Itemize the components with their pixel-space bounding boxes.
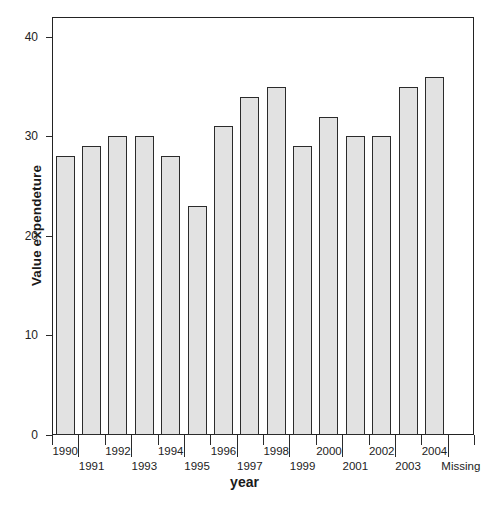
bar bbox=[267, 87, 286, 435]
bar-chart: Value expendeture 010203040 199019911992… bbox=[0, 0, 489, 506]
x-tick-mark bbox=[316, 435, 317, 445]
bar bbox=[56, 156, 75, 435]
y-tick-label: 30 bbox=[4, 130, 38, 142]
x-tick-label: 1998 bbox=[253, 445, 299, 457]
x-tick-label: 1993 bbox=[121, 460, 167, 472]
y-tick-label: 10 bbox=[4, 329, 38, 341]
bar bbox=[108, 136, 127, 435]
y-tick-label: 0 bbox=[4, 429, 38, 441]
x-tick-label: 2003 bbox=[385, 460, 431, 472]
x-tick-mark bbox=[421, 435, 422, 445]
bar bbox=[293, 146, 312, 435]
bar bbox=[425, 77, 444, 435]
x-tick-mark bbox=[369, 435, 370, 445]
bar bbox=[399, 87, 418, 435]
x-tick-mark bbox=[474, 435, 475, 445]
x-tick-label: 1994 bbox=[148, 445, 194, 457]
x-tick-label: 2000 bbox=[306, 445, 352, 457]
x-tick-label: 1992 bbox=[95, 445, 141, 457]
bar bbox=[82, 146, 101, 435]
x-tick-label: 2004 bbox=[411, 445, 457, 457]
bar bbox=[188, 206, 207, 435]
y-axis-title: Value expendeture bbox=[29, 116, 44, 336]
x-tick-label: 2002 bbox=[359, 445, 405, 457]
bar bbox=[346, 136, 365, 435]
bar bbox=[372, 136, 391, 435]
x-tick-mark bbox=[105, 435, 106, 445]
bar bbox=[240, 97, 259, 435]
bar bbox=[214, 126, 233, 435]
x-tick-mark bbox=[158, 435, 159, 445]
x-tick-mark bbox=[52, 435, 53, 445]
x-tick-label: 1999 bbox=[280, 460, 326, 472]
x-tick-label: 2001 bbox=[332, 460, 378, 472]
x-tick-label: 1996 bbox=[200, 445, 246, 457]
x-tick-label: 1997 bbox=[227, 460, 273, 472]
x-tick-label: Missing bbox=[438, 460, 484, 472]
bars-container bbox=[52, 17, 474, 435]
y-tick-label: 20 bbox=[4, 230, 38, 242]
y-tick-label: 40 bbox=[4, 31, 38, 43]
x-tick-label: 1991 bbox=[69, 460, 115, 472]
x-tick-label: 1995 bbox=[174, 460, 220, 472]
x-tick-mark bbox=[210, 435, 211, 445]
x-tick-label: 1990 bbox=[42, 445, 88, 457]
bar bbox=[135, 136, 154, 435]
bar bbox=[161, 156, 180, 435]
x-tick-mark bbox=[263, 435, 264, 445]
x-axis-title: year bbox=[0, 474, 489, 490]
bar bbox=[319, 117, 338, 435]
